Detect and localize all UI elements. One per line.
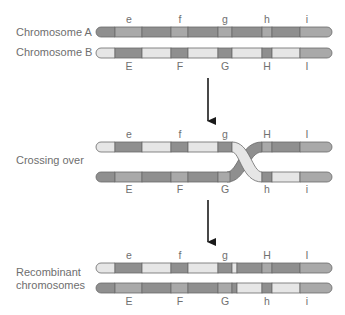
recombinant-chromosome-bottom <box>96 283 332 293</box>
recombinant-chromosome-top <box>96 263 332 273</box>
chromosome-a <box>96 27 332 37</box>
crossover-chromosomes <box>96 142 332 182</box>
chromosome-diagram <box>0 0 345 315</box>
chromosome-b <box>96 48 332 58</box>
